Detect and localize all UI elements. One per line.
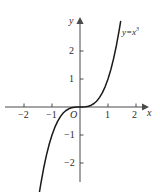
x-tick-label--1: −1 <box>46 110 57 120</box>
curve-equation-base: y=x <box>122 27 136 37</box>
curve-equation-label: y=x3 <box>122 26 139 37</box>
origin-label: O <box>70 110 77 120</box>
y-axis-label: y <box>69 16 73 26</box>
curve-equation-exponent: 3 <box>136 26 139 32</box>
x-tick-label-1: 1 <box>105 110 110 120</box>
y-tick-label--1: −1 <box>64 130 75 140</box>
x-axis-label: x <box>147 108 151 118</box>
y-tick-label-1: 1 <box>69 74 74 84</box>
cubic-function-graph-figure: −2 −1 1 2 2 1 −1 −2 x y O y=x3 <box>0 0 160 192</box>
y-axis-arrowhead <box>76 17 83 24</box>
x-tick-label-2: 2 <box>132 110 137 120</box>
x-tick-label--2: −2 <box>18 110 29 120</box>
y-tick-label--2: −2 <box>64 158 75 168</box>
y-tick-label-2: 2 <box>69 46 74 56</box>
